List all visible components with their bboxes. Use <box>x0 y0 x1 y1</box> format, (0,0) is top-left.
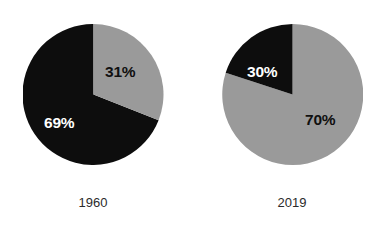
pie-2019-black-value-label: 30% <box>247 64 277 80</box>
pie-chart-1960 <box>23 24 164 165</box>
pie-2019-svg <box>222 24 363 165</box>
pie-1960-year-label: 1960 <box>43 196 143 209</box>
pie-chart-2019 <box>222 24 363 165</box>
pie-1960-black-value-label: 69% <box>44 115 74 131</box>
pie-chart-figure: 31% 69% 1960 30% 70% 2019 <box>0 0 385 225</box>
pie-2019-year-label: 2019 <box>242 196 342 209</box>
pie-2019-gray-value-label: 70% <box>305 112 335 128</box>
pie-1960-gray-value-label: 31% <box>105 64 135 80</box>
pie-1960-svg <box>23 24 164 165</box>
